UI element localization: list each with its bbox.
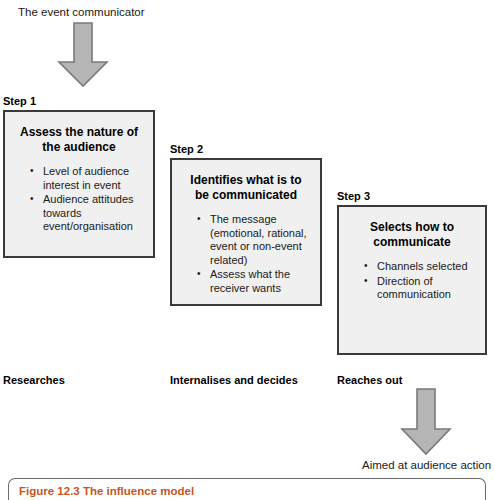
step-bullets-1: Level of audience interest in event Audi… (15, 165, 143, 234)
list-item: Channels selected (377, 260, 473, 274)
list-item: The message (emotional, rational, event … (210, 213, 308, 267)
step-title-2: Identifies what is to be communicated (186, 173, 306, 203)
phase-label-internalises-and-decides: Internalises and decides (170, 374, 298, 387)
phase-label-researches: Researches (3, 374, 65, 387)
list-item: Direction of communication (377, 275, 473, 302)
step-title-3: Selects how to communicate (353, 220, 471, 250)
step-label-3: Step 3 (337, 190, 370, 203)
step-box-1: Assess the nature of the audience Level … (3, 110, 155, 258)
step-label-1: Step 1 (3, 95, 36, 108)
step-title-1: Assess the nature of the audience (19, 125, 139, 155)
step-bullets-3: Channels selected Direction of communica… (349, 260, 475, 302)
top-down-arrow (57, 22, 109, 88)
figure-caption-text: Figure 12.3 The influence model (19, 484, 194, 498)
list-item: Level of audience interest in event (43, 165, 141, 192)
phase-label-reaches-out: Reaches out (337, 374, 402, 387)
outcome-label: Aimed at audience action (362, 458, 491, 472)
step-box-3: Selects how to communicate Channels sele… (337, 205, 487, 355)
step-box-2: Identifies what is to be communicated Th… (170, 158, 322, 306)
list-item: Audience attitudes towards event/organis… (43, 193, 141, 234)
diagram-top-label: The event communicator (18, 5, 145, 19)
bottom-down-arrow (400, 388, 452, 456)
figure-caption-bar: Figure 12.3 The influence model (8, 478, 486, 500)
list-item: Assess what the receiver wants (210, 268, 308, 295)
step-bullets-2: The message (emotional, rational, event … (182, 213, 310, 295)
step-label-2: Step 2 (170, 143, 203, 156)
